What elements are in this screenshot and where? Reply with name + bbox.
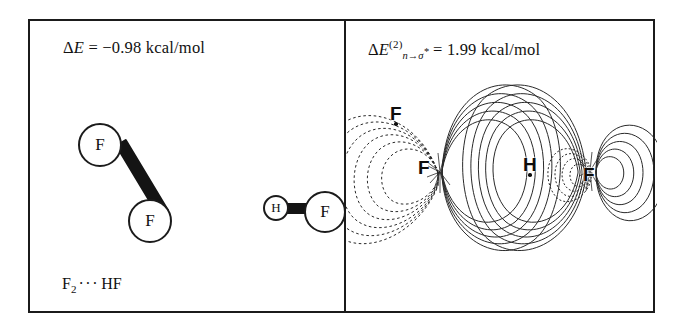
panel-divider xyxy=(344,21,346,311)
figure-root: ΔE = −0.98 kcal/mol F F H F F2···HF ΔE(2… xyxy=(0,0,684,332)
energy-symbol: E xyxy=(74,38,84,57)
atom-fluorine-lower: F xyxy=(128,199,172,243)
atom-letter: F xyxy=(418,157,430,178)
orbital-contour-plot xyxy=(346,21,657,311)
delta-symbol: Δ xyxy=(63,38,74,57)
energy-value: −0.98 xyxy=(102,38,141,57)
orbital-atom-label-f-donor: F xyxy=(418,157,430,179)
orbital-atom-label-f-upper: F xyxy=(390,103,402,126)
energy-units: kcal/mol xyxy=(146,38,205,57)
caption-f: F xyxy=(62,275,71,292)
atom-letter: H xyxy=(523,154,537,175)
delta-e-label: ΔE = −0.98 kcal/mol xyxy=(63,38,205,58)
atom-fluorine-upper: F xyxy=(78,123,122,167)
panel-ball-and-stick: ΔE = −0.98 kcal/mol F F H F F2···HF xyxy=(30,21,344,311)
figure-frame: ΔE = −0.98 kcal/mol F F H F F2···HF ΔE(2… xyxy=(28,19,655,313)
atom-fluorine-hf: F xyxy=(304,191,346,233)
panel-orbital-overlap: ΔE(2)n→σ* = 1.99 kcal/mol xyxy=(346,21,657,311)
atom-letter: F xyxy=(390,103,402,124)
orbital-atom-label-f-acceptor: F xyxy=(583,164,595,186)
equals-sign: = xyxy=(88,38,98,57)
caption-hf: HF xyxy=(101,275,121,292)
orbital-atom-label-h: H xyxy=(523,154,537,177)
atom-hydrogen: H xyxy=(263,195,289,221)
atom-letter: F xyxy=(583,164,595,185)
caption-dots: ··· xyxy=(76,275,101,292)
panel-caption: F2···HF xyxy=(62,275,122,295)
